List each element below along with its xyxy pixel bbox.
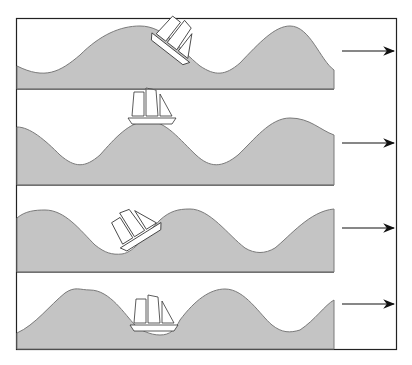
ship-icon	[130, 291, 178, 331]
panel-4	[17, 289, 394, 349]
panel-3	[17, 194, 394, 272]
ship-icon	[128, 84, 176, 124]
wave-ship-diagram	[0, 0, 412, 365]
wave-panel-2	[17, 118, 334, 185]
wave-panel-3	[17, 209, 334, 272]
wave-panel-4	[17, 289, 334, 349]
panel-2	[17, 84, 394, 185]
